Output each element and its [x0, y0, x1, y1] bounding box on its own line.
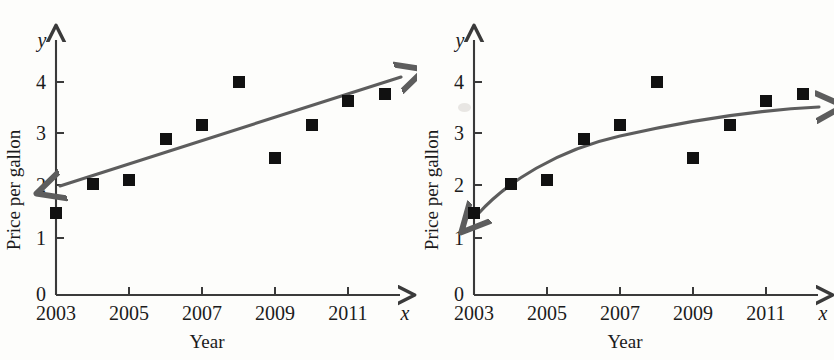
data-point	[468, 207, 480, 219]
panel-left-linear-fit: 4 3 2 1 0 2003 2005 2007 2009 2011 y x P…	[0, 0, 417, 360]
data-point	[379, 88, 391, 100]
x-tick-label-2003: 2003	[36, 302, 76, 324]
linear-fit-line	[60, 77, 401, 186]
data-point	[797, 88, 809, 100]
data-point	[306, 119, 318, 131]
y-axis-variable-label: y	[36, 29, 47, 52]
x-axis-title: Year	[189, 331, 225, 352]
x-tick-label-2005: 2005	[109, 302, 149, 324]
x-tick-label-2009: 2009	[255, 302, 295, 324]
data-point	[50, 207, 62, 219]
x-tick-label-2007: 2007	[182, 302, 222, 324]
data-point	[233, 76, 245, 88]
data-point	[160, 133, 172, 145]
data-point	[269, 152, 281, 164]
data-point	[578, 133, 590, 145]
data-point	[760, 95, 772, 107]
x-tick-label-2007: 2007	[600, 302, 640, 324]
data-point	[123, 174, 135, 186]
data-point	[724, 119, 736, 131]
y-tick-label-1: 1	[36, 227, 46, 249]
quadratic-fit-curve	[478, 107, 819, 214]
data-point	[687, 152, 699, 164]
y-axis-variable-label: y	[454, 29, 465, 52]
data-point	[87, 178, 99, 190]
x-tick-label-2009: 2009	[673, 302, 713, 324]
y-tick-label-2: 2	[454, 174, 464, 196]
x-tick-label-2011: 2011	[746, 302, 785, 324]
y-tick-label-3: 3	[454, 122, 464, 144]
data-point	[614, 119, 626, 131]
y-axis-title: Price per gallon	[3, 129, 24, 250]
data-point	[651, 76, 663, 88]
x-tick-label-2005: 2005	[527, 302, 567, 324]
data-point	[342, 95, 354, 107]
x-axis-variable-label: x	[818, 302, 828, 324]
x-axis-title: Year	[607, 331, 643, 352]
figure-two-scatter-plots: 4 3 2 1 0 2003 2005 2007 2009 2011 y x P…	[0, 0, 834, 360]
data-point	[541, 174, 553, 186]
right-chart-svg: 4 3 2 1 0 2003 2005 2007 2009 2011 y x P…	[417, 0, 834, 360]
panel-right-quadratic-fit: 4 3 2 1 0 2003 2005 2007 2009 2011 y x P…	[417, 0, 834, 360]
x-axis-variable-label: x	[400, 302, 410, 324]
y-tick-label-3: 3	[36, 122, 46, 144]
x-tick-label-2011: 2011	[328, 302, 367, 324]
y-tick-label-2: 2	[36, 174, 46, 196]
x-tick-label-2003: 2003	[454, 302, 494, 324]
left-chart-svg: 4 3 2 1 0 2003 2005 2007 2009 2011 y x P…	[0, 0, 417, 360]
data-point	[505, 178, 517, 190]
y-tick-label-4: 4	[36, 71, 46, 93]
data-point	[196, 119, 208, 131]
y-tick-label-1: 1	[454, 227, 464, 249]
y-tick-label-4: 4	[454, 71, 464, 93]
y-axis-title: Price per gallon	[421, 129, 442, 250]
